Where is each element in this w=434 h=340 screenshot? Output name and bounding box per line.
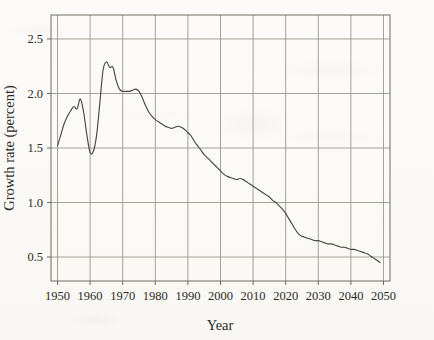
y-tick-label: 1.5 [27, 141, 43, 155]
figure-page: 0.51.01.52.02.5 195019601970198019902000… [0, 0, 434, 340]
x-axis-ticks: 1950196019701980199020002010202020302040… [45, 281, 396, 303]
y-axis-title: Growth rate (percent) [1, 85, 18, 211]
x-tick-label: 1970 [110, 289, 135, 303]
y-tick-label: 1.0 [27, 196, 43, 210]
y-axis-ticks: 0.51.01.52.02.5 [27, 32, 51, 264]
x-tick-label: 1960 [78, 289, 103, 303]
x-tick-label: 2040 [338, 289, 363, 303]
growth-rate-line-chart: 0.51.01.52.02.5 195019601970198019902000… [0, 0, 434, 340]
x-tick-label: 1980 [143, 289, 168, 303]
x-tick-label: 1950 [45, 289, 70, 303]
x-tick-label: 2000 [208, 289, 233, 303]
x-tick-label: 2020 [273, 289, 298, 303]
y-tick-label: 2.0 [27, 87, 43, 101]
x-tick-label: 2010 [241, 289, 266, 303]
y-tick-label: 0.5 [27, 250, 43, 264]
x-tick-label: 2030 [306, 289, 331, 303]
x-axis-title: Year [207, 317, 234, 333]
x-tick-label: 1990 [175, 289, 200, 303]
x-tick-label: 2050 [371, 289, 396, 303]
y-tick-label: 2.5 [27, 32, 43, 46]
